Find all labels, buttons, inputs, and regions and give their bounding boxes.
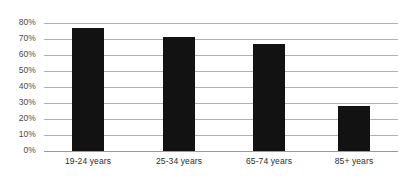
bar (253, 44, 285, 151)
x-axis-category-label: 25-34 years (136, 157, 222, 166)
bar (163, 37, 195, 151)
x-axis-category-label: 85+ years (311, 157, 397, 166)
x-axis-category-label: 19-24 years (45, 157, 131, 166)
x-axis-category-label: 65-74 years (226, 157, 312, 166)
bar (72, 28, 104, 151)
bar-chart: 0%10%20%30%40%50%60%70%80% 19-24 years25… (0, 0, 407, 179)
bar (338, 106, 370, 151)
bars-group (0, 0, 407, 179)
